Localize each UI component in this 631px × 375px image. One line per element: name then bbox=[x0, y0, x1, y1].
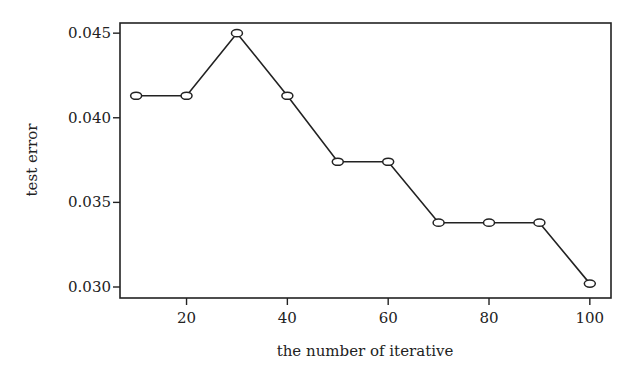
x-axis-ticks: 20406080100 bbox=[177, 298, 604, 327]
data-point-marker bbox=[484, 219, 495, 226]
data-point-marker bbox=[433, 219, 444, 226]
y-axis-label: test error bbox=[23, 123, 41, 197]
data-point-marker bbox=[383, 158, 394, 165]
y-axis-ticks: 0.0300.0350.0400.045 bbox=[68, 24, 120, 296]
y-tick-label: 0.045 bbox=[68, 24, 111, 42]
x-tick-label: 20 bbox=[177, 309, 196, 327]
series-line bbox=[136, 33, 590, 283]
data-point-marker bbox=[131, 92, 142, 99]
y-tick-label: 0.040 bbox=[68, 109, 111, 127]
y-tick-label: 0.030 bbox=[68, 278, 111, 296]
series-markers bbox=[131, 30, 596, 288]
data-point-marker bbox=[282, 92, 293, 99]
data-point-marker bbox=[534, 219, 545, 226]
y-tick-label: 0.035 bbox=[68, 193, 111, 211]
data-point-marker bbox=[181, 92, 192, 99]
x-tick-label: 60 bbox=[379, 309, 398, 327]
data-point-marker bbox=[584, 280, 595, 287]
data-point-marker bbox=[332, 158, 343, 165]
x-axis-label: the number of iterative bbox=[277, 342, 454, 360]
plot-frame bbox=[120, 23, 611, 298]
x-tick-label: 80 bbox=[479, 309, 498, 327]
x-tick-label: 40 bbox=[278, 309, 297, 327]
x-tick-label: 100 bbox=[576, 309, 605, 327]
line-chart: 0.0300.0350.0400.045 20406080100 the num… bbox=[0, 0, 631, 375]
data-point-marker bbox=[231, 30, 242, 37]
